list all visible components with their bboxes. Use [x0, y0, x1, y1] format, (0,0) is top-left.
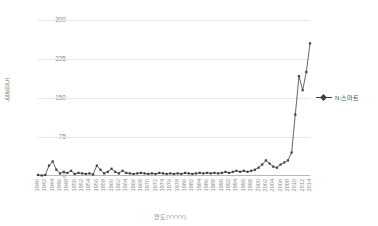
- data-point-marker: [140, 172, 142, 174]
- data-point-marker: [70, 170, 72, 172]
- x-axis-tick-label: 1960: [109, 179, 115, 191]
- data-point-marker: [235, 170, 237, 172]
- data-point-marker: [92, 173, 94, 175]
- data-point-marker: [283, 161, 285, 163]
- data-point-marker: [302, 89, 304, 91]
- data-point-marker: [129, 172, 131, 174]
- data-point-marker: [151, 172, 153, 174]
- x-axis-tick-label: 1986: [204, 179, 210, 191]
- x-axis-tick-label: 1942: [42, 179, 48, 191]
- data-point-marker: [99, 169, 101, 171]
- data-point-marker: [110, 168, 112, 170]
- data-point-marker: [173, 173, 175, 175]
- x-axis-tick-label: 1970: [145, 179, 151, 191]
- x-axis-tick-label: 1968: [138, 179, 144, 191]
- data-point-marker: [180, 173, 182, 175]
- series-n-smart: [38, 20, 310, 176]
- x-axis-tick-label: 1956: [94, 179, 100, 191]
- data-point-marker: [217, 172, 219, 174]
- data-point-marker: [81, 172, 83, 174]
- data-point-marker: [305, 71, 307, 73]
- data-point-marker: [221, 172, 223, 174]
- data-point-marker: [166, 173, 168, 175]
- data-point-marker: [265, 159, 267, 161]
- x-axis-tick-label: 1944: [50, 179, 56, 191]
- x-axis-tick-label: 2012: [300, 179, 306, 191]
- data-point-marker: [147, 173, 149, 175]
- data-point-marker: [268, 162, 270, 164]
- x-axis-title: 연도(YYYY): [0, 212, 340, 221]
- data-point-marker: [66, 172, 68, 174]
- x-axis-tick-label: 1976: [167, 179, 173, 191]
- data-point-marker: [52, 160, 54, 162]
- data-point-marker: [96, 165, 98, 167]
- data-point-marker: [195, 172, 197, 174]
- data-point-marker: [44, 174, 46, 176]
- legend-line-icon: [316, 97, 332, 98]
- data-point-marker: [199, 172, 201, 174]
- data-point-marker: [272, 166, 274, 168]
- data-point-marker: [85, 173, 87, 175]
- data-point-marker: [213, 172, 215, 174]
- plot-area: [38, 20, 310, 176]
- data-point-marker: [191, 173, 193, 175]
- data-point-marker: [294, 114, 296, 116]
- data-point-marker: [74, 173, 76, 175]
- data-point-marker: [254, 169, 256, 171]
- data-point-marker: [261, 163, 263, 165]
- x-axis-tick-label: 1962: [116, 179, 122, 191]
- x-axis-tick-label: 2004: [270, 179, 276, 191]
- data-point-marker: [103, 172, 105, 174]
- x-axis-tick-label: 1980: [182, 179, 188, 191]
- data-point-marker: [158, 172, 160, 174]
- x-axis-tick-label: 1964: [123, 179, 129, 191]
- data-point-marker: [210, 172, 212, 174]
- data-point-marker: [309, 42, 311, 44]
- legend-label-n-smart: N:스마트: [335, 93, 359, 102]
- data-point-marker: [114, 171, 116, 173]
- data-point-marker: [291, 152, 293, 154]
- x-axis-tick-label: 1948: [64, 179, 70, 191]
- data-point-marker: [224, 171, 226, 173]
- legend-diamond-marker-icon: [320, 94, 327, 101]
- x-axis-tick-label: 2002: [263, 179, 269, 191]
- data-point-marker: [48, 165, 50, 167]
- line-chart: 논문빈도 075150225300 1940194219441946194819…: [0, 0, 378, 226]
- data-point-marker: [107, 171, 109, 173]
- data-point-marker: [63, 171, 65, 173]
- x-axis-tick-label: 1990: [219, 179, 225, 191]
- x-axis-tick-label: 1966: [131, 179, 137, 191]
- data-point-marker: [243, 170, 245, 172]
- x-axis-tick-label: 1946: [57, 179, 63, 191]
- data-point-marker: [279, 163, 281, 165]
- x-axis-tick-label: 1978: [175, 179, 181, 191]
- data-point-marker: [132, 173, 134, 175]
- data-point-marker: [188, 172, 190, 174]
- data-point-marker: [169, 172, 171, 174]
- data-point-marker: [298, 75, 300, 77]
- data-point-marker: [206, 172, 208, 174]
- data-point-marker: [125, 172, 127, 174]
- data-point-marker: [228, 172, 230, 174]
- data-point-marker: [37, 174, 39, 176]
- data-point-marker: [59, 172, 61, 174]
- x-axis-tick-label: 1940: [35, 179, 41, 191]
- data-point-marker: [121, 170, 123, 172]
- data-point-marker: [143, 172, 145, 174]
- x-axis-tick-label: 1996: [241, 179, 247, 191]
- x-axis-tick-label: 1992: [226, 179, 232, 191]
- x-axis-tick-label: 2008: [285, 179, 291, 191]
- data-point-marker: [287, 159, 289, 161]
- data-point-marker: [41, 174, 43, 176]
- x-axis-tick-label: 2000: [256, 179, 262, 191]
- data-point-marker: [232, 171, 234, 173]
- data-point-marker: [202, 172, 204, 174]
- data-point-marker: [77, 172, 79, 174]
- data-point-marker: [55, 169, 57, 171]
- x-axis-tick-label: 1982: [189, 179, 195, 191]
- x-axis-tick-label: 1958: [101, 179, 107, 191]
- x-axis-tick-label: 1984: [197, 179, 203, 191]
- data-point-marker: [246, 171, 248, 173]
- data-point-marker: [276, 167, 278, 169]
- x-axis-tick-label: 1954: [86, 179, 92, 191]
